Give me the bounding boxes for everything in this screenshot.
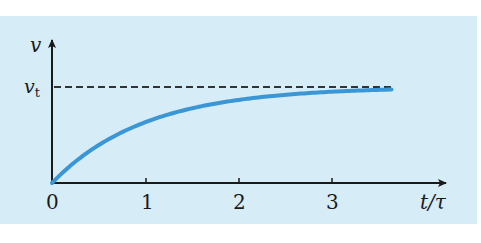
velocity-curve bbox=[52, 90, 391, 184]
y-axis-label: v bbox=[30, 33, 42, 57]
x-tick-label-0: 0 bbox=[46, 190, 59, 214]
x-axis-label: t/τ bbox=[420, 190, 447, 214]
chart-svg: v vt 0 1 2 3 t/τ bbox=[0, 0, 481, 243]
x-tick-label-1: 1 bbox=[141, 190, 154, 214]
x-tick-label-3: 3 bbox=[326, 190, 339, 214]
x-tick-label-2: 2 bbox=[233, 190, 246, 214]
vt-label: vt bbox=[24, 75, 41, 100]
